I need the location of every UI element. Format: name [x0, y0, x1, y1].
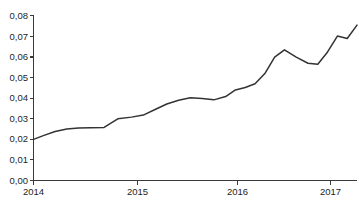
y-tick-label-1: 0,01	[10, 154, 29, 165]
y-tick-label-7: 0,07	[10, 31, 29, 42]
y-tick-label-6: 0,06	[10, 51, 29, 62]
x-tick-label-2015: 2015	[127, 186, 148, 197]
series-group	[34, 25, 358, 139]
y-tick-label-3: 0,03	[10, 113, 29, 124]
y-tick-label-8: 0,08	[10, 10, 29, 21]
y-tick-label-4: 0,04	[10, 92, 29, 103]
x-axis: 2014 2015 2016 2017	[23, 181, 357, 198]
y-tick-label-5: 0,05	[10, 72, 29, 83]
data-line-series-1	[34, 25, 358, 139]
x-tick-label-2016: 2016	[227, 186, 248, 197]
x-tick-label-2014: 2014	[23, 186, 44, 197]
line-chart: 0,00 0,01 0,02 0,03 0,04 0,05 0,06 0,07 …	[0, 0, 359, 217]
x-tick-label-2017: 2017	[320, 186, 341, 197]
y-axis: 0,00 0,01 0,02 0,03 0,04 0,05 0,06 0,07 …	[10, 10, 34, 186]
chart-canvas: 0,00 0,01 0,02 0,03 0,04 0,05 0,06 0,07 …	[0, 0, 359, 217]
y-tick-label-0: 0,00	[10, 175, 29, 186]
y-tick-label-2: 0,02	[10, 133, 29, 144]
